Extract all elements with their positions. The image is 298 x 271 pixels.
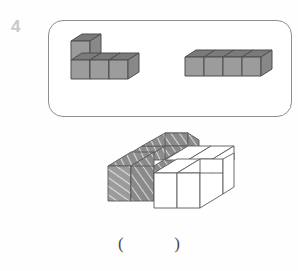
question-number: 4 bbox=[11, 18, 20, 35]
composite-figure bbox=[108, 133, 234, 208]
worksheet-page: 4 bbox=[0, 0, 298, 271]
open-paren: ( bbox=[118, 234, 124, 254]
prompt-box bbox=[48, 20, 292, 117]
answer-parentheses: ( ) bbox=[0, 234, 298, 254]
close-paren: ) bbox=[174, 234, 180, 254]
